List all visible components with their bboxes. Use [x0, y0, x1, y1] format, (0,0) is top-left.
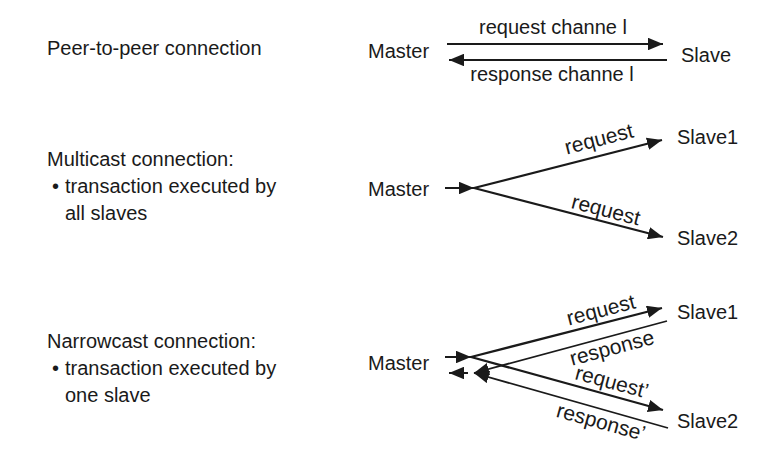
- peer-master-node: Master: [368, 40, 429, 63]
- peer-slave-node: Slave: [681, 44, 731, 67]
- narrowcast-master-node: Master: [368, 352, 429, 375]
- peer-response-channel-label: response channe l: [470, 63, 633, 86]
- bullet-icon: •: [52, 355, 65, 409]
- narrowcast-slave2-node: Slave2: [677, 410, 738, 433]
- narrowcast-bullet-item: • transaction executed by one slave: [47, 355, 287, 409]
- multicast-title: Multicast connection:: [47, 146, 287, 173]
- bullet-icon: •: [52, 173, 65, 227]
- multicast-master-node: Master: [368, 178, 429, 201]
- multicast-bullet-text: transaction executed by all slaves: [65, 173, 287, 227]
- narrowcast-title: Narrowcast connection:: [47, 328, 287, 355]
- multicast-bullet-item: • transaction executed by all slaves: [47, 173, 287, 227]
- multicast-slave1-node: Slave1: [677, 126, 738, 149]
- peer-request-channel-label: request channe l: [479, 16, 627, 39]
- multicast-description: Multicast connection: • transaction exec…: [47, 146, 287, 227]
- connection-types-figure: Peer-to-peer connection Master Slave req…: [0, 0, 778, 461]
- narrowcast-slave1-node: Slave1: [677, 301, 738, 324]
- narrowcast-bullet-text: transaction executed by one slave: [65, 355, 287, 409]
- peer-title: Peer-to-peer connection: [47, 37, 262, 60]
- narrowcast-description: Narrowcast connection: • transaction exe…: [47, 328, 287, 409]
- multicast-slave2-node: Slave2: [677, 227, 738, 250]
